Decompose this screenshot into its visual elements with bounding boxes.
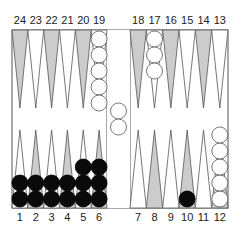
black-checker[interactable] xyxy=(179,191,195,207)
point-label: 8 xyxy=(147,211,163,223)
white-checker[interactable] xyxy=(212,175,228,191)
white-checker[interactable] xyxy=(212,127,228,143)
white-checker[interactable] xyxy=(212,143,228,159)
black-checker[interactable] xyxy=(75,159,91,175)
point-label: 12 xyxy=(212,211,228,223)
point-label: 20 xyxy=(75,14,91,26)
white-checker[interactable] xyxy=(91,95,107,111)
white-checker[interactable] xyxy=(91,79,107,95)
point-label: 15 xyxy=(179,14,195,26)
point-label: 4 xyxy=(59,211,75,223)
white-checker[interactable] xyxy=(212,159,228,175)
backgammon-board[interactable] xyxy=(0,0,241,233)
white-checker-on-bar[interactable] xyxy=(111,119,127,135)
white-checker[interactable] xyxy=(212,191,228,207)
point-label: 21 xyxy=(59,14,75,26)
black-checker[interactable] xyxy=(12,191,28,207)
white-checker-on-bar[interactable] xyxy=(111,103,127,119)
black-checker[interactable] xyxy=(91,191,107,207)
black-checker[interactable] xyxy=(59,175,75,191)
point-label: 1 xyxy=(12,211,28,223)
point-label: 2 xyxy=(28,211,44,223)
point-label: 14 xyxy=(196,14,212,26)
white-checker[interactable] xyxy=(91,63,107,79)
white-checker[interactable] xyxy=(91,47,107,63)
white-checker[interactable] xyxy=(147,31,163,47)
point-label: 9 xyxy=(163,211,179,223)
black-checker[interactable] xyxy=(75,175,91,191)
black-checker[interactable] xyxy=(59,191,75,207)
point-label: 17 xyxy=(147,14,163,26)
white-checker[interactable] xyxy=(147,47,163,63)
point-label: 3 xyxy=(44,211,60,223)
black-checker[interactable] xyxy=(44,175,60,191)
point-label: 24 xyxy=(12,14,28,26)
point-label: 22 xyxy=(44,14,60,26)
white-checker[interactable] xyxy=(91,31,107,47)
white-checker[interactable] xyxy=(147,63,163,79)
black-checker[interactable] xyxy=(91,159,107,175)
black-checker[interactable] xyxy=(44,191,60,207)
point-label: 19 xyxy=(91,14,107,26)
point-label: 6 xyxy=(91,211,107,223)
point-label: 5 xyxy=(75,211,91,223)
point-label: 7 xyxy=(130,211,146,223)
point-label: 10 xyxy=(179,211,195,223)
point-label: 11 xyxy=(196,211,212,223)
black-checker[interactable] xyxy=(91,175,107,191)
point-label: 23 xyxy=(28,14,44,26)
black-checker[interactable] xyxy=(75,191,91,207)
point-label: 18 xyxy=(130,14,146,26)
black-checker[interactable] xyxy=(12,175,28,191)
black-checker[interactable] xyxy=(28,191,44,207)
black-checker[interactable] xyxy=(28,175,44,191)
point-label: 16 xyxy=(163,14,179,26)
point-label: 13 xyxy=(212,14,228,26)
